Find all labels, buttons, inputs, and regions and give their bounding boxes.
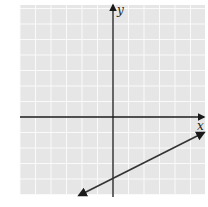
y-axis-label: y (117, 3, 124, 17)
coordinate-plane (0, 0, 208, 207)
x-axis-label: x (197, 119, 204, 133)
